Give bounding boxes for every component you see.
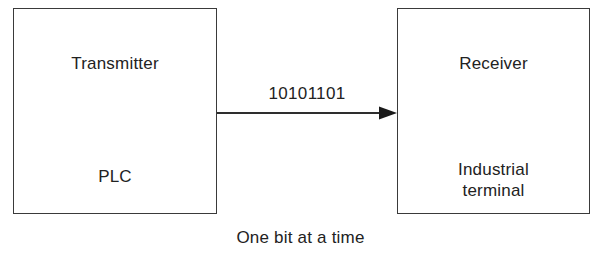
transmitter-node: Transmitter PLC (13, 8, 217, 214)
diagram-caption: One bit at a time (0, 227, 601, 249)
receiver-title: Receiver (398, 53, 589, 74)
serial-communication-diagram: Transmitter PLC Receiver Industrial term… (0, 0, 601, 260)
receiver-subtitle: Industrial terminal (398, 159, 589, 201)
transmitter-subtitle: PLC (14, 166, 216, 187)
bitstream-label: 10101101 (217, 84, 397, 104)
arrow-head-icon (379, 107, 397, 120)
transmitter-title: Transmitter (14, 53, 216, 74)
receiver-node: Receiver Industrial terminal (397, 8, 590, 214)
